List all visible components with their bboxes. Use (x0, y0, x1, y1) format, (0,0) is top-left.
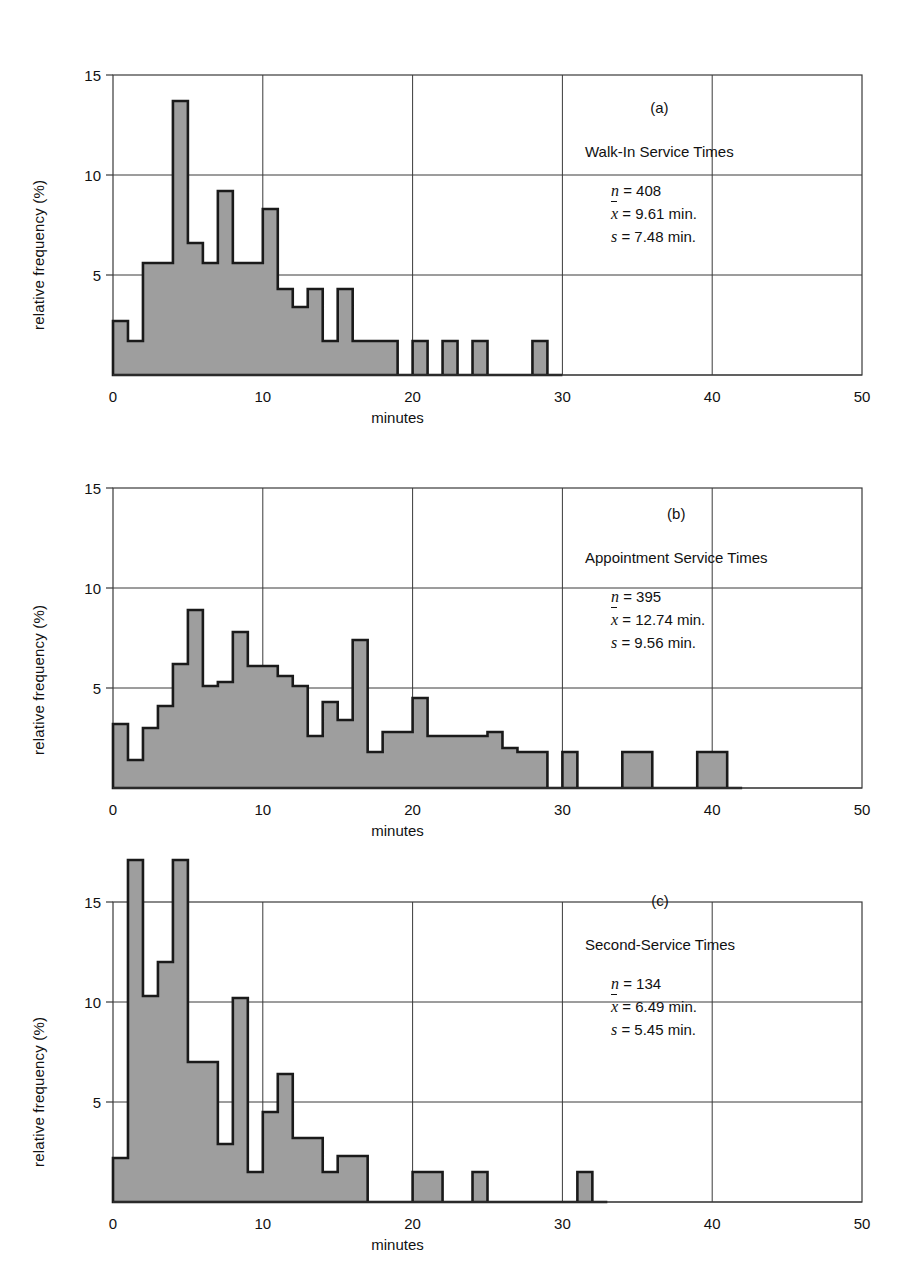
stat-n-symbol-c: n (611, 975, 619, 992)
stats-block-c: n = 134 x = 6.49 min. s = 5.45 min. (611, 972, 735, 1042)
histogram-bars (113, 860, 607, 1202)
x-tick-label: 40 (704, 388, 721, 405)
stat-mean-value-c: = 6.49 min. (622, 998, 697, 1015)
y-tick-label: 15 (84, 894, 101, 911)
y-tick-label: 10 (84, 167, 101, 184)
stat-n-value-b: = 395 (623, 588, 661, 605)
stat-sd-symbol-a: s (611, 228, 617, 245)
stat-n-value-c: = 134 (623, 975, 661, 992)
y-axis-label-b: relative frequency (%) (30, 605, 47, 755)
stat-n-c: n = 134 (611, 972, 735, 995)
x-tick-label: 20 (404, 1215, 421, 1232)
stat-mean-b: x = 12.74 min. (611, 608, 768, 631)
stat-mean-symbol-a: x (611, 202, 618, 225)
x-tick-label: 50 (854, 388, 871, 405)
stat-sd-value-b: = 9.56 min. (621, 634, 696, 651)
stat-mean-symbol-b: x (611, 608, 618, 631)
x-tick-label: 10 (254, 388, 271, 405)
stat-sd-symbol-c: s (611, 1021, 617, 1038)
stat-mean-value-b: = 12.74 min. (622, 611, 705, 628)
stat-sd-b: s = 9.56 min. (611, 631, 768, 654)
x-tick-label: 0 (109, 1215, 117, 1232)
x-tick-label: 30 (554, 388, 571, 405)
series-title-b: Appointment Service Times (585, 547, 768, 569)
x-tick-label: 50 (854, 1215, 871, 1232)
stat-n-symbol-b: n (611, 588, 619, 605)
x-axis-label: minutes (371, 409, 424, 426)
panel-letter-a: (a) (585, 97, 734, 119)
x-tick-label: 0 (109, 388, 117, 405)
histogram-panel-c: relative frequency (%) 5101501020304050m… (0, 812, 921, 1267)
stats-block-b: n = 395 x = 12.74 min. s = 9.56 min. (611, 585, 768, 655)
x-tick-label: 40 (704, 1215, 721, 1232)
stat-mean-a: x = 9.61 min. (611, 202, 734, 225)
x-axis-label: minutes (371, 1236, 424, 1253)
stats-block-a: n = 408 x = 9.61 min. s = 7.48 min. (611, 179, 734, 249)
y-tick-label: 10 (84, 580, 101, 597)
stat-sd-symbol-b: s (611, 634, 617, 651)
y-tick-label: 15 (84, 67, 101, 84)
panel-letter-c: (c) (585, 890, 735, 912)
panel-letter-b: (b) (585, 503, 768, 525)
stat-sd-value-c: = 5.45 min. (621, 1021, 696, 1038)
stat-mean-symbol-c: x (611, 995, 618, 1018)
y-tick-label: 5 (93, 267, 101, 284)
chart-svg-c: 5101501020304050minutes (0, 812, 921, 1267)
stat-n-a: n = 408 (611, 179, 734, 202)
series-title-a: Walk-In Service Times (585, 141, 734, 163)
chart-svg-a: 5101501020304050minutes (0, 0, 921, 440)
stat-n-symbol-a: n (611, 182, 619, 199)
stat-sd-a: s = 7.48 min. (611, 225, 734, 248)
annotation-b: (b) Appointment Service Times n = 395 x … (585, 503, 768, 654)
y-tick-label: 5 (93, 1094, 101, 1111)
histogram-panel-a: relative frequency (%) 5101501020304050m… (0, 0, 921, 440)
annotation-c: (c) Second-Service Times n = 134 x = 6.4… (585, 890, 735, 1041)
stat-mean-c: x = 6.49 min. (611, 995, 735, 1018)
x-tick-label: 30 (554, 1215, 571, 1232)
stat-n-value-a: = 408 (623, 182, 661, 199)
series-title-c: Second-Service Times (585, 934, 735, 956)
x-tick-label: 20 (404, 388, 421, 405)
histogram-panel-b: relative frequency (%) 5101501020304050m… (0, 425, 921, 855)
y-tick-label: 10 (84, 994, 101, 1011)
y-tick-label: 5 (93, 680, 101, 697)
y-axis-label-c: relative frequency (%) (30, 1017, 47, 1167)
x-tick-label: 10 (254, 1215, 271, 1232)
stat-sd-c: s = 5.45 min. (611, 1018, 735, 1041)
y-tick-label: 15 (84, 480, 101, 497)
chart-svg-b: 5101501020304050minutes (0, 425, 921, 855)
stat-mean-value-a: = 9.61 min. (622, 205, 697, 222)
histogram-bars (113, 101, 562, 375)
stat-sd-value-a: = 7.48 min. (621, 228, 696, 245)
stat-n-b: n = 395 (611, 585, 768, 608)
three-histograms-figure: relative frequency (%) 5101501020304050m… (0, 0, 921, 1267)
y-axis-label-a: relative frequency (%) (30, 180, 47, 330)
annotation-a: (a) Walk-In Service Times n = 408 x = 9.… (585, 97, 734, 248)
